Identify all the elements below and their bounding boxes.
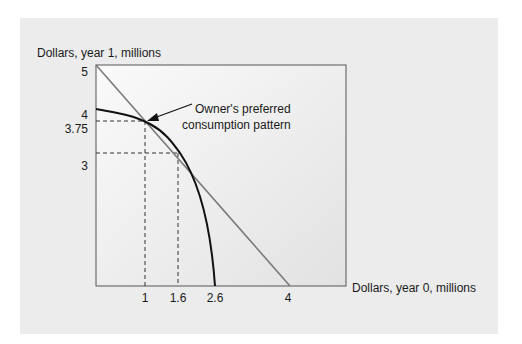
- annotation-text-1: Owner's preferred: [195, 102, 291, 116]
- y-tick-5: 5: [81, 65, 88, 79]
- y-tick-4: 4: [81, 108, 88, 122]
- x-tick-2-6: 2.6: [207, 291, 224, 305]
- annotation-text-2: consumption pattern: [182, 118, 291, 132]
- plot-area: [96, 65, 346, 286]
- x-axis-label: Dollars, year 0, millions: [352, 281, 476, 295]
- x-tick-1-6: 1.6: [170, 291, 187, 305]
- chart: Dollars, year 1, millions Dollars, year …: [0, 0, 522, 344]
- y-axis-label: Dollars, year 1, millions: [37, 46, 161, 60]
- y-tick-3-75: 3.75: [65, 122, 89, 136]
- x-tick-4: 4: [285, 291, 292, 305]
- x-tick-1: 1: [142, 291, 149, 305]
- y-tick-3: 3: [81, 159, 88, 173]
